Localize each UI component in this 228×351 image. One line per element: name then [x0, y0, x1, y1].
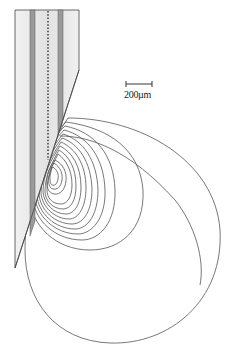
probe-band-left — [30, 10, 35, 236]
probe-outer-sheath — [15, 10, 79, 268]
contour-14 — [25, 118, 220, 343]
probe-field-diagram — [0, 0, 228, 351]
scale-bar — [126, 81, 152, 87]
probe — [15, 10, 79, 268]
scale-bar-label: 200µm — [124, 89, 151, 100]
probe-band-right — [58, 10, 63, 135]
field-contours — [25, 118, 220, 343]
contour-2 — [50, 167, 58, 185]
